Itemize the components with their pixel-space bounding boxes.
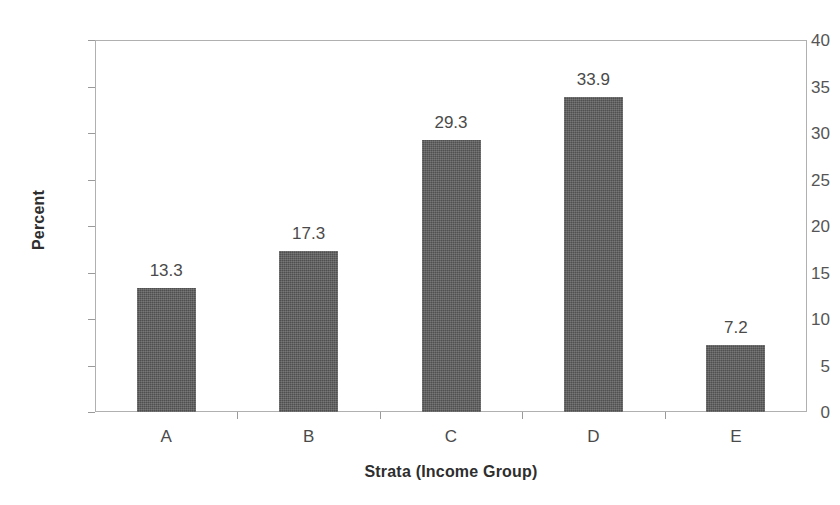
y-axis-tick-label: 40	[762, 32, 840, 49]
x-axis-tick	[665, 412, 666, 419]
x-axis-tick	[380, 412, 381, 419]
y-axis-tick	[88, 273, 95, 274]
y-axis-tick	[88, 133, 95, 134]
y-axis-tick-label: 5	[762, 357, 840, 374]
y-axis-tick	[88, 319, 95, 320]
y-axis-tick-label: 30	[762, 125, 840, 142]
bar	[422, 140, 481, 412]
bar	[706, 345, 765, 412]
x-axis-category-label: C	[391, 428, 511, 447]
bar-value-label: 29.3	[391, 114, 511, 131]
x-axis-category-label: E	[676, 428, 796, 447]
x-axis-category-label: D	[533, 428, 653, 447]
x-axis-tick	[522, 412, 523, 419]
y-axis-tick	[88, 40, 95, 41]
bar-chart: Percent 0510152025303540 ABCDE 13.317.32…	[0, 0, 840, 505]
y-axis-tick-label: 15	[762, 264, 840, 281]
y-axis-tick	[88, 366, 95, 367]
y-axis-tick-label: 0	[762, 404, 840, 421]
bar-value-label: 7.2	[676, 319, 796, 336]
x-axis-tick	[237, 412, 238, 419]
y-axis-tick-label: 20	[762, 218, 840, 235]
x-axis-category-label: B	[249, 428, 369, 447]
bar-value-label: 17.3	[249, 225, 369, 242]
y-axis-tick	[88, 226, 95, 227]
y-axis-tick	[88, 412, 95, 413]
y-axis-tick	[88, 180, 95, 181]
y-axis-tick	[88, 87, 95, 88]
bar-value-label: 13.3	[106, 262, 226, 279]
x-axis-category-label: A	[106, 428, 226, 447]
y-axis-title: Percent	[26, 90, 52, 350]
bar	[564, 97, 623, 412]
y-axis-tick-label: 35	[762, 78, 840, 95]
x-axis-title: Strata (Income Group)	[95, 463, 807, 481]
bar-value-label: 33.9	[533, 71, 653, 88]
y-axis-tick-label: 25	[762, 171, 840, 188]
bar	[279, 251, 338, 412]
bar	[137, 288, 196, 412]
